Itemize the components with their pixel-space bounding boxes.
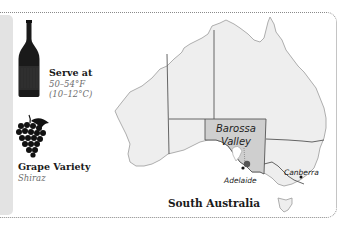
barossa-marker xyxy=(244,161,250,167)
serve-temp-c: (10–12°C) xyxy=(49,89,92,99)
serve-temp-f: 50–54°F xyxy=(49,79,85,89)
barossa-label-line2: Valley xyxy=(221,136,252,147)
grape-variety-label: Grape Variety xyxy=(18,161,91,172)
city-label-adelaide: Adelaide xyxy=(223,176,257,185)
adelaide-marker xyxy=(241,166,244,169)
serve-at-label: Serve at xyxy=(49,67,92,78)
australia-map: Barossa Valley Adelaide Canberra xyxy=(112,14,336,214)
grape-variety-value: Shiraz xyxy=(18,173,46,183)
australia-mainland xyxy=(115,17,326,186)
tasmania xyxy=(278,198,292,212)
city-label-canberra: Canberra xyxy=(284,168,319,177)
region-title: South Australia xyxy=(168,197,260,209)
sidebar-strip xyxy=(0,15,13,215)
wine-bottle-icon xyxy=(16,18,42,98)
grape-cluster-icon xyxy=(15,112,51,158)
barossa-label-line1: Barossa xyxy=(216,123,256,134)
